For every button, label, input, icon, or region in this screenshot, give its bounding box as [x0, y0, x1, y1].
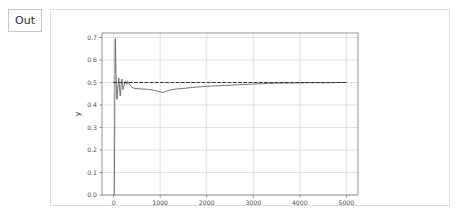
x-tick-label: 5000: [338, 199, 354, 206]
x-tick-label: 0: [112, 199, 116, 206]
y-tick-label: 0.5: [87, 79, 97, 86]
x-tick-label: 3000: [245, 199, 261, 206]
output-cell-label: Out: [15, 15, 35, 26]
y-axis-title: y: [73, 111, 82, 116]
series-running-average: [114, 39, 347, 195]
axis-ticks: [100, 38, 347, 198]
plot-svg: 0.00.10.20.30.40.50.60.70100020003000400…: [51, 10, 451, 207]
y-tick-label: 0.4: [87, 101, 97, 108]
y-tick-label: 0.1: [87, 169, 97, 176]
x-tick-label: 4000: [292, 199, 308, 206]
output-panel: 0.00.10.20.30.40.50.60.70100020003000400…: [50, 9, 450, 206]
data-series: [114, 39, 347, 195]
x-tick-label: 1000: [152, 199, 168, 206]
axis-tick-labels: 0.00.10.20.30.40.50.60.70100020003000400…: [87, 34, 354, 206]
output-cell-label-box[interactable]: Out: [8, 9, 42, 32]
y-tick-label: 0.0: [87, 191, 97, 198]
y-tick-label: 0.7: [87, 34, 97, 41]
x-tick-label: 2000: [199, 199, 215, 206]
y-tick-label: 0.6: [87, 56, 97, 63]
plot-frame: [102, 33, 358, 195]
grid-lines: [102, 33, 358, 195]
convergence-plot-figure: 0.00.10.20.30.40.50.60.70100020003000400…: [51, 10, 451, 207]
y-tick-label: 0.3: [87, 124, 97, 131]
y-tick-label: 0.2: [87, 146, 97, 153]
